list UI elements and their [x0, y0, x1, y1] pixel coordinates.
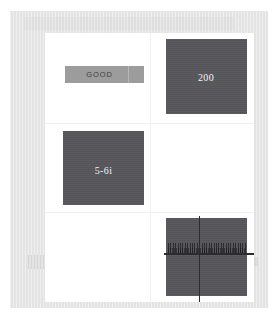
crosshair-tile-texture [166, 218, 247, 296]
good-status-bar-label: GOOD [86, 70, 113, 79]
cell-middle-left: 5-6i [45, 123, 150, 213]
good-status-bar[interactable]: GOOD [65, 66, 144, 83]
value-tile-label: 200 [198, 72, 214, 83]
cell-top-left: GOOD [45, 33, 150, 123]
crosshair-horizontal-axis [164, 253, 254, 254]
content-card: GOOD 200 5-6i [45, 33, 254, 302]
value-tile[interactable]: 200 [166, 39, 247, 114]
good-status-bar-divider [128, 66, 129, 83]
code-tile-label: 5-6i [95, 165, 113, 176]
crosshair-vertical-axis [199, 216, 200, 302]
page-root: GOOD 200 5-6i [0, 0, 280, 324]
cell-bottom-right [150, 212, 255, 302]
frame-artifact-top [24, 17, 234, 30]
frame-artifact-right [254, 257, 258, 266]
outer-frame: GOOD 200 5-6i [10, 11, 268, 308]
cell-top-right: 200 [150, 33, 255, 123]
crosshair-tile[interactable] [166, 218, 247, 296]
tick-marks-fine-icon [168, 248, 247, 253]
cell-middle-right [150, 123, 255, 213]
content-grid: GOOD 200 5-6i [45, 33, 254, 302]
code-tile[interactable]: 5-6i [63, 131, 144, 205]
cell-bottom-left [45, 212, 150, 302]
